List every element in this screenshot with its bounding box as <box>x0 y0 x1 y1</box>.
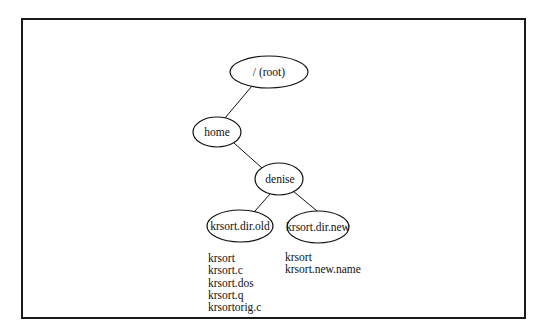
file-item: krsort.q <box>208 289 261 301</box>
node-root-label: / (root) <box>253 66 285 79</box>
file-item: krsort.dos <box>208 277 261 289</box>
node-denise-label: denise <box>265 173 294 185</box>
node-krsort-dir-old-label: krsort.dir.old <box>210 220 270 232</box>
file-item: krsort <box>208 252 261 264</box>
file-item: krsortorig.c <box>208 301 261 313</box>
directory-tree: / (root) home denise krsort.dir.old krso… <box>0 0 546 335</box>
edge-denise-old <box>255 194 270 211</box>
edge-home-denise <box>234 143 262 168</box>
file-item: krsort.new.name <box>285 263 361 275</box>
file-list-krsort-dir-old: krsort krsort.c krsort.dos krsort.q krso… <box>208 252 261 313</box>
edge-denise-new <box>293 191 317 211</box>
file-item: krsort.c <box>208 264 261 276</box>
file-list-krsort-dir-new: krsort krsort.new.name <box>285 251 361 276</box>
edge-root-home <box>225 86 252 118</box>
node-krsort-dir-new-label: krsort.dir.new <box>286 221 351 233</box>
node-home-label: home <box>204 126 230 138</box>
file-item: krsort <box>285 251 361 263</box>
